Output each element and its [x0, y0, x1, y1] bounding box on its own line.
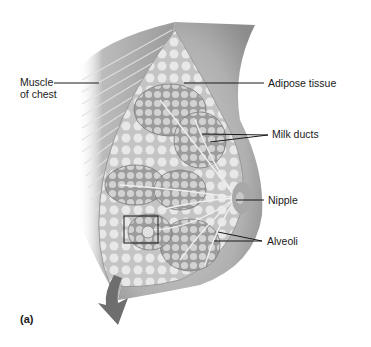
label-milk-ducts: Milk ducts	[272, 128, 319, 140]
nipple	[232, 182, 252, 214]
panel-label: (a)	[20, 313, 33, 325]
label-muscle-line1: Muscle	[20, 76, 57, 88]
label-alveoli: Alveoli	[267, 235, 298, 247]
label-muscle-of-chest: Muscle of chest	[20, 76, 57, 100]
label-adipose-tissue: Adipose tissue	[268, 77, 336, 89]
label-nipple: Nipple	[268, 194, 298, 206]
label-muscle-line2: of chest	[20, 88, 57, 100]
breast-anatomy-illustration	[0, 0, 371, 347]
